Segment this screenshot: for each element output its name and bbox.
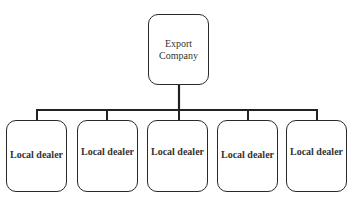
local-dealer-node-4: Local dealer <box>217 120 278 192</box>
export-company-node: Export Company <box>148 14 209 85</box>
root-label-line2: Company <box>159 50 198 62</box>
local-dealer-node-2: Local dealer <box>77 120 138 192</box>
dealer-label: Local dealer <box>221 149 274 160</box>
dealer-label: Local dealer <box>10 149 63 160</box>
dealer-label: Local dealer <box>151 146 204 157</box>
local-dealer-node-3: Local dealer <box>147 120 208 192</box>
local-dealer-node-5: Local dealer <box>286 120 347 192</box>
dealer-label: Local dealer <box>290 146 343 157</box>
local-dealer-node-1: Local dealer <box>6 120 67 192</box>
root-label-line1: Export <box>159 38 198 50</box>
dealer-label: Local dealer <box>81 146 134 157</box>
